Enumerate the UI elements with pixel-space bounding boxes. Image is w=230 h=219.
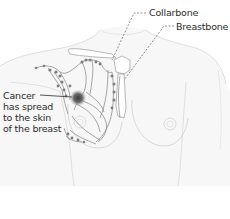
- cancer-label: Cancer has spread to the skin of the bre…: [3, 90, 73, 134]
- cancer-label-line-3: to the skin: [3, 112, 73, 123]
- breastbone-label: Breastbone: [176, 21, 228, 32]
- cancer-label-line-1: Cancer: [3, 90, 73, 101]
- cancer-label-line-2: has spread: [3, 101, 73, 112]
- collarbone-label: Collarbone: [149, 7, 198, 18]
- cancer-label-line-4: of the breast: [3, 123, 73, 134]
